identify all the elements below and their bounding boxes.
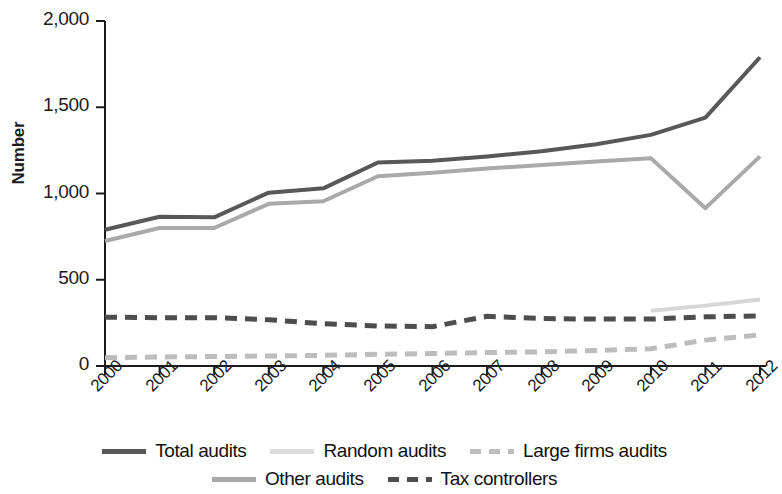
legend-swatch [388,477,432,482]
legend-swatch [470,449,514,454]
legend-item[interactable]: Large firms audits [470,440,667,462]
legend-label: Random audits [323,440,446,462]
series-line [105,156,760,241]
legend-item[interactable]: Total audits [102,440,246,462]
legend-label: Large firms audits [523,440,667,462]
legend-row: Total auditsRandom auditsLarge firms aud… [0,437,769,465]
legend-swatch [102,449,146,454]
series-line [105,57,760,230]
legend-label: Total audits [155,440,246,462]
legend-item[interactable]: Tax controllers [388,468,558,490]
legend-label: Other audits [265,468,364,490]
legend-label: Tax controllers [441,468,558,490]
series-line [651,300,760,311]
series-line [105,335,760,358]
legend-swatch [270,449,314,454]
series-line [105,316,760,327]
data-series [105,57,760,357]
chart-legend: Total auditsRandom auditsLarge firms aud… [0,437,769,493]
legend-item[interactable]: Random audits [270,440,446,462]
axes [96,21,766,375]
legend-row: Other auditsTax controllers [0,465,769,493]
legend-swatch [212,477,256,482]
legend-item[interactable]: Other audits [212,468,364,490]
